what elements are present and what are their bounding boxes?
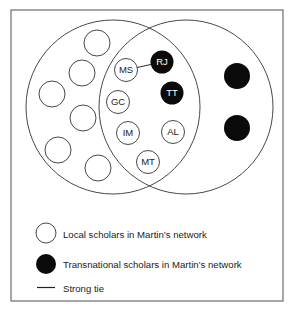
legend-transnational-label: Transnational scholars in Martin’s netwo… bbox=[63, 259, 242, 270]
node-label: RJ bbox=[156, 56, 168, 67]
local-scholar-node-mt: MT bbox=[137, 151, 160, 174]
local-scholar-node bbox=[45, 137, 71, 163]
local-scholar-node bbox=[84, 30, 110, 56]
transnational-scholar-node-tt: TT bbox=[161, 82, 184, 105]
legend-local-label: Local scholars in Martin’s network bbox=[63, 229, 207, 240]
legend-transnational-icon bbox=[36, 254, 56, 274]
transnational-scholar-node bbox=[224, 115, 250, 141]
legend: Local scholars in Martin’s network Trans… bbox=[36, 223, 242, 294]
node-label: TT bbox=[166, 87, 178, 98]
local-scholar-node-gc: GC bbox=[107, 91, 130, 114]
transnational-scholar-node-rj: RJ bbox=[151, 51, 174, 74]
legend-local-icon bbox=[36, 223, 56, 243]
node-label: AL bbox=[167, 126, 179, 137]
node-label: MS bbox=[119, 64, 133, 75]
local-scholar-node bbox=[39, 81, 65, 107]
node-label: MT bbox=[141, 156, 155, 167]
node-label: IM bbox=[123, 127, 134, 138]
local-scholar-node bbox=[69, 60, 95, 86]
transnational-scholar-node bbox=[224, 63, 250, 89]
local-scholar-node-im: IM bbox=[117, 122, 140, 145]
legend-strong-tie-label: Strong tie bbox=[63, 283, 104, 294]
scholar-nodes: MSRJTTGCIMALMT bbox=[39, 30, 250, 181]
local-scholar-node bbox=[70, 105, 96, 131]
local-scholar-node-al: AL bbox=[162, 121, 185, 144]
local-scholar-node-ms: MS bbox=[115, 59, 138, 82]
network-venn-figure: MSRJTTGCIMALMT Local scholars in Martin’… bbox=[0, 0, 295, 316]
local-scholar-node bbox=[85, 155, 111, 181]
node-label: GC bbox=[111, 96, 125, 107]
